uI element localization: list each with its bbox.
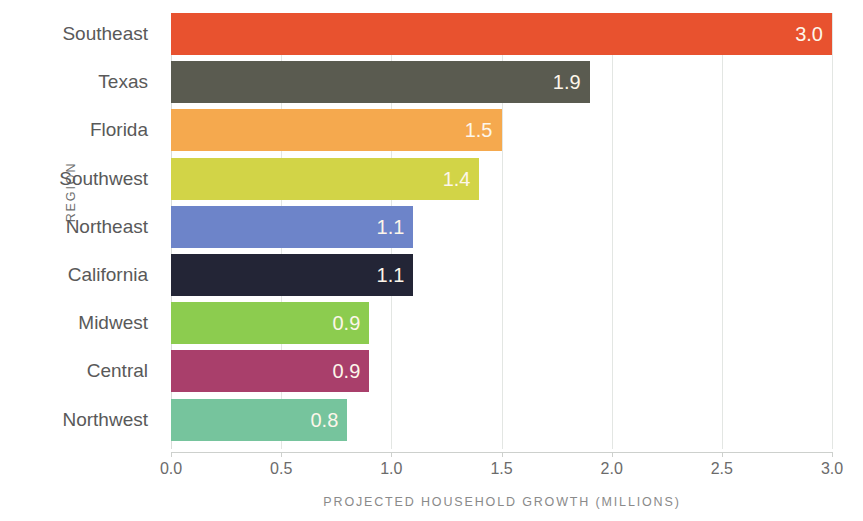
bar-florida[interactable]: 1.5 xyxy=(171,109,502,151)
bar-row: 1.1 xyxy=(171,254,832,296)
plot-area: 3.01.91.51.41.11.10.90.90.8 xyxy=(171,13,832,449)
x-tick-mark xyxy=(502,452,503,457)
category-label-northwest: Northwest xyxy=(62,399,148,441)
x-tick-mark xyxy=(832,452,833,457)
bar-series: 3.01.91.51.41.11.10.90.90.8 xyxy=(171,13,832,449)
x-tick-label: 2.0 xyxy=(582,460,642,478)
bar-southwest[interactable]: 1.4 xyxy=(171,158,479,200)
bar-chart: REGION SoutheastTexasFloridaSouthwestNor… xyxy=(0,0,863,521)
category-label-southwest: Southwest xyxy=(59,158,148,200)
bar-row: 0.8 xyxy=(171,399,832,441)
bar-value-label: 1.1 xyxy=(377,254,405,296)
x-tick-label: 1.0 xyxy=(361,460,421,478)
bar-southeast[interactable]: 3.0 xyxy=(171,13,832,55)
x-tick-mark xyxy=(281,452,282,457)
x-tick-label: 0.0 xyxy=(141,460,201,478)
bar-value-label: 1.4 xyxy=(443,158,471,200)
x-tick-label: 3.0 xyxy=(802,460,862,478)
x-tick-mark xyxy=(722,452,723,457)
category-axis-labels: SoutheastTexasFloridaSouthwestNortheastC… xyxy=(0,13,160,449)
x-tick-label: 1.5 xyxy=(472,460,532,478)
category-label-midwest: Midwest xyxy=(78,302,148,344)
bar-northwest[interactable]: 0.8 xyxy=(171,399,347,441)
bar-value-label: 0.9 xyxy=(332,350,360,392)
bar-california[interactable]: 1.1 xyxy=(171,254,413,296)
category-label-southeast: Southeast xyxy=(62,13,148,55)
x-axis-title: PROJECTED HOUSEHOLD GROWTH (MILLIONS) xyxy=(171,495,833,509)
bar-value-label: 1.5 xyxy=(465,109,493,151)
bar-value-label: 0.9 xyxy=(332,302,360,344)
bar-row: 3.0 xyxy=(171,13,832,55)
category-label-texas: Texas xyxy=(98,61,148,103)
x-tick-mark xyxy=(171,452,172,457)
category-label-florida: Florida xyxy=(90,109,148,151)
x-tick-mark xyxy=(391,452,392,457)
bar-row: 1.5 xyxy=(171,109,832,151)
category-label-central: Central xyxy=(87,350,148,392)
bar-value-label: 1.9 xyxy=(553,61,581,103)
bar-value-label: 3.0 xyxy=(795,13,823,55)
gridline xyxy=(832,13,833,449)
bar-northeast[interactable]: 1.1 xyxy=(171,206,413,248)
bar-central[interactable]: 0.9 xyxy=(171,350,369,392)
x-tick-mark xyxy=(612,452,613,457)
bar-row: 0.9 xyxy=(171,350,832,392)
category-label-california: California xyxy=(68,254,148,296)
category-label-northeast: Northeast xyxy=(66,206,148,248)
bar-midwest[interactable]: 0.9 xyxy=(171,302,369,344)
bar-row: 1.9 xyxy=(171,61,832,103)
bar-value-label: 1.1 xyxy=(377,206,405,248)
bar-value-label: 0.8 xyxy=(310,399,338,441)
bar-row: 0.9 xyxy=(171,302,832,344)
bar-row: 1.1 xyxy=(171,206,832,248)
x-tick-label: 2.5 xyxy=(692,460,752,478)
x-tick-label: 0.5 xyxy=(251,460,311,478)
bar-texas[interactable]: 1.9 xyxy=(171,61,590,103)
bar-row: 1.4 xyxy=(171,158,832,200)
